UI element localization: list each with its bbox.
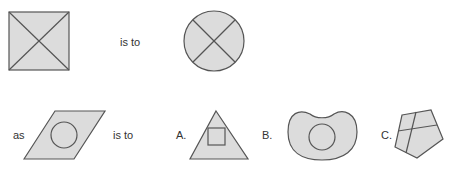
option-a-label[interactable]: A.: [176, 130, 186, 141]
square-with-diagonals-shape: [9, 12, 69, 70]
circle-with-cross-shape: [184, 11, 244, 71]
parallelogram-with-circle-shape: [24, 111, 105, 159]
option-b-label[interactable]: B.: [262, 130, 272, 141]
connector-is-to-2: is to: [113, 130, 133, 141]
analogy-figure: [0, 0, 457, 172]
option-c-pentagon-shape[interactable]: [395, 110, 443, 158]
connector-is-to-1: is to: [120, 37, 140, 48]
prefix-as: as: [13, 130, 25, 141]
option-a-triangle-shape[interactable]: [190, 111, 248, 159]
option-c-label[interactable]: C.: [381, 130, 392, 141]
option-b-kidney-shape[interactable]: [288, 112, 357, 160]
